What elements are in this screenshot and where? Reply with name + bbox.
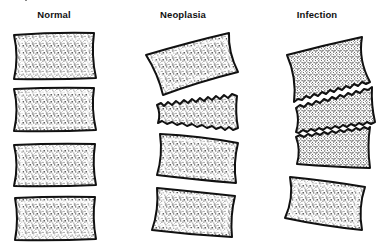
vertebrae-diagram [0, 0, 379, 244]
column-normal [14, 33, 96, 241]
vertebra-neoplasia-1 [146, 33, 238, 95]
vertebra-infection-4 [285, 177, 365, 230]
column-neoplasia [146, 33, 238, 237]
column-infection [285, 37, 375, 230]
vertebra-infection-3 [296, 127, 370, 168]
vertebra-normal-1 [14, 33, 96, 80]
vertebra-normal-4 [15, 197, 96, 241]
vertebra-normal-2 [14, 88, 96, 132]
spine-comparison-figure: Normal Neoplasia Infection [0, 0, 379, 244]
vertebra-neoplasia-4 [152, 188, 235, 237]
vertebra-neoplasia-2-collapsed [157, 94, 238, 130]
vertebra-normal-3 [14, 144, 96, 187]
vertebra-neoplasia-3 [157, 134, 238, 183]
